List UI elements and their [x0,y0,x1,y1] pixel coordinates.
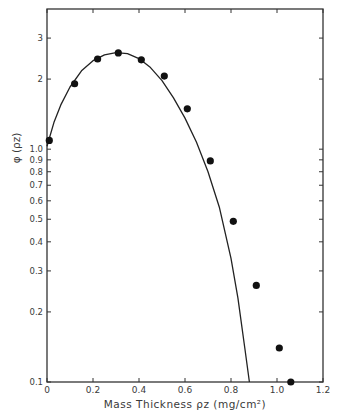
data-point [276,344,283,351]
y-tick-label: 0.9 [29,155,43,165]
y-tick-label: 0.3 [29,266,43,276]
chart: 00.20.40.60.81.01.2 0.10.20.30.40.50.60.… [0,0,339,418]
y-tick-label: 0.4 [29,237,43,247]
y-tick-label: 2 [38,74,43,84]
y-tick-label: 0.7 [29,180,43,190]
y-tick-label: 0.8 [29,167,43,177]
x-tick-label: 0.8 [224,385,239,395]
data-point [287,378,294,385]
x-tick-label: 0 [44,385,50,395]
y-tick-label: 0.6 [29,196,43,206]
chart-background [0,0,339,418]
x-axis-label: Mass Thickness ρz (mg/cm²) [104,398,266,410]
data-point [207,157,214,164]
data-point [46,137,53,144]
y-tick-label: 1.0 [29,144,43,154]
x-tick-label: 0.2 [86,385,100,395]
data-point [184,105,191,112]
y-tick-label: 3 [38,33,43,43]
x-tick-label: 1.2 [316,385,330,395]
y-tick-label: 0.5 [29,214,43,224]
y-tick-label: 0.2 [29,307,43,317]
data-point [115,49,122,56]
data-point [138,56,145,63]
data-point [230,218,237,225]
x-tick-label: 0.4 [132,385,147,395]
y-tick-label: 0.1 [29,377,43,387]
data-point [161,72,168,79]
data-point [94,55,101,62]
x-tick-label: 1.0 [270,385,285,395]
x-tick-label: 0.6 [178,385,193,395]
data-point [71,80,78,87]
data-point [253,282,260,289]
y-axis-label: φ (ρz) [10,133,22,164]
